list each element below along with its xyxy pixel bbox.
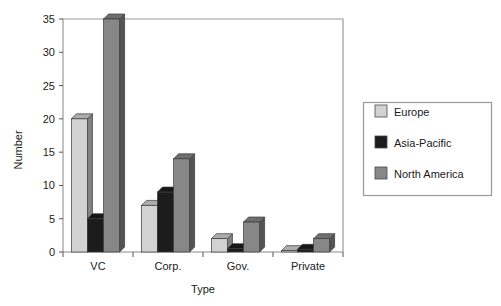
legend-swatch [375,105,387,117]
y-axis: 05101520253035 [43,13,63,258]
y-tick-label: 20 [43,113,55,125]
bar-front [157,192,173,252]
y-tick-label: 30 [43,46,55,58]
bar-front [211,239,227,252]
y-tick-label: 25 [43,80,55,92]
legend-label: Asia-Pacific [394,137,452,149]
bar-front [227,249,243,252]
x-tick-label: Private [291,260,325,272]
legend-label: Europe [394,106,429,118]
x-axis-title: Type [191,283,215,295]
y-axis-title: Number [12,130,24,169]
bar-front [141,205,157,252]
bar [174,154,195,252]
bar-front [297,249,313,252]
bar [244,217,265,252]
x-tick-label: Corp. [155,260,182,272]
legend-item: Europe [375,105,429,118]
legend-swatch [375,136,387,148]
x-axis: VCCorp.Gov.Private [63,252,343,272]
y-tick-label: 10 [43,179,55,191]
bar-side [120,14,125,252]
bar-side [190,154,195,252]
legend-swatch [375,167,387,179]
bar-front [314,239,330,252]
legend-label: North America [394,168,465,180]
y-tick-label: 5 [49,213,55,225]
chart-svg: 05101520253035 VCCorp.Gov.Private Number… [0,0,501,306]
bars-group [71,14,334,252]
bar-front [174,159,190,252]
bar-front [281,251,297,252]
y-tick-label: 0 [49,246,55,258]
legend-item: Asia-Pacific [375,136,452,149]
bar-front [104,19,120,252]
bar [314,234,335,252]
bar-front [87,219,103,252]
chart-legend: EuropeAsia-PacificNorth America [364,103,492,196]
x-tick-label: Gov. [227,260,249,272]
bar-front [71,119,87,252]
bar [104,14,125,252]
bar-side [260,217,265,252]
y-tick-label: 15 [43,146,55,158]
bar-chart-figure: 05101520253035 VCCorp.Gov.Private Number… [0,0,501,306]
bar-front [244,222,260,252]
y-tick-label: 35 [43,13,55,25]
x-tick-label: VC [90,260,105,272]
